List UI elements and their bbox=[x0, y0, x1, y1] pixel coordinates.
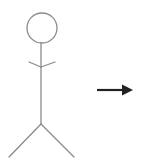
diagram-canvas bbox=[0, 0, 142, 166]
actor-left-leg bbox=[9, 124, 41, 157]
actor-left-arm bbox=[29, 62, 41, 67]
actor-stick-figure-icon bbox=[9, 13, 74, 157]
arrow-head bbox=[122, 85, 133, 96]
actor-right-leg bbox=[41, 124, 74, 157]
actor-head bbox=[27, 13, 57, 43]
actor-right-arm bbox=[41, 62, 55, 67]
right-arrow-icon bbox=[97, 85, 133, 96]
